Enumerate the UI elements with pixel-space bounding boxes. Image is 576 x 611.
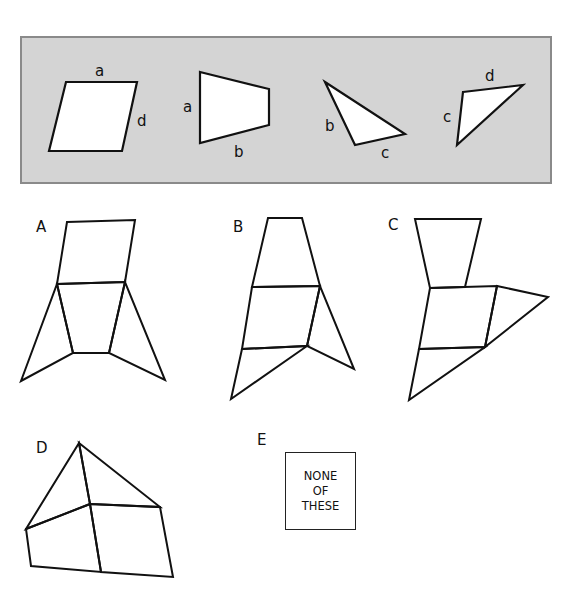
option-c-figure — [409, 219, 548, 400]
option-b-label: B — [233, 218, 243, 236]
piece-trapezoid-label-b: b — [234, 143, 244, 161]
option-d-label: D — [36, 439, 48, 457]
option-b-figure — [231, 218, 354, 399]
option-c[interactable]: C — [388, 216, 548, 400]
pieces-panel: a d a b b c c d — [21, 37, 551, 183]
option-a[interactable]: A — [21, 218, 165, 381]
option-e-label: E — [257, 431, 266, 449]
piece-parallelogram-label-a: a — [95, 62, 104, 80]
option-a-label: A — [36, 218, 47, 236]
piece-triangle-bc-label-b: b — [325, 117, 335, 135]
piece-triangle-cd-label-c: c — [443, 108, 451, 126]
piece-triangle-bc-label-c: c — [381, 144, 389, 162]
option-a-figure — [21, 220, 165, 381]
option-c-label: C — [388, 216, 398, 234]
option-d[interactable]: D — [26, 439, 173, 577]
option-e-text-line-2: OF — [313, 484, 329, 499]
option-e-none-of-these-box[interactable]: NONE OF THESE — [285, 452, 356, 530]
option-e[interactable]: E — [257, 431, 266, 449]
piece-trapezoid-label-a: a — [183, 98, 192, 116]
piece-triangle-cd-label-d: d — [485, 67, 495, 85]
piece-parallelogram-label-d: d — [137, 112, 147, 130]
option-e-text-line-3: THESE — [302, 499, 340, 514]
option-b[interactable]: B — [231, 218, 354, 399]
option-d-figure — [26, 443, 173, 577]
option-e-text-line-1: NONE — [304, 469, 338, 484]
